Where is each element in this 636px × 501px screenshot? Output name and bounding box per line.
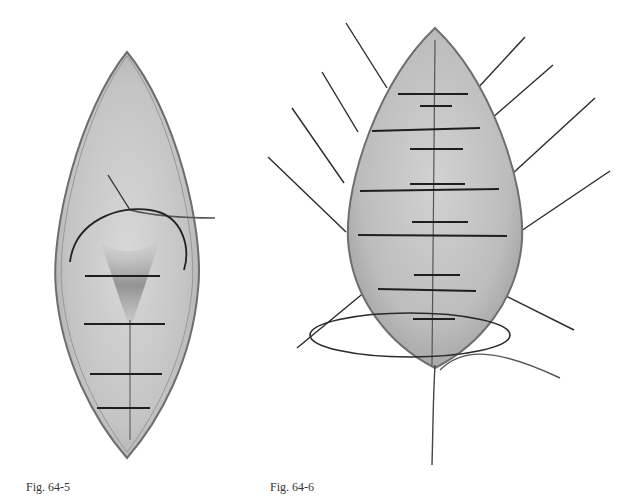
figure-caption-64-6: Fig. 64-6 xyxy=(270,480,314,495)
figure-caption-64-5: Fig. 64-5 xyxy=(26,480,70,495)
wound-illustration-right xyxy=(0,0,636,470)
